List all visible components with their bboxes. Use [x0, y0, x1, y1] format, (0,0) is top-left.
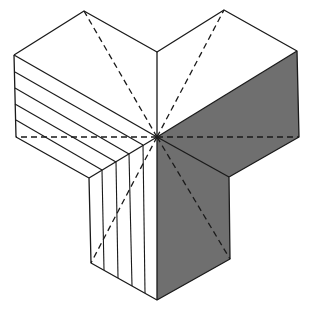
isometric-solid-figure: [0, 0, 310, 310]
center-vertex: [155, 135, 159, 139]
diagram-canvas: [0, 0, 310, 310]
